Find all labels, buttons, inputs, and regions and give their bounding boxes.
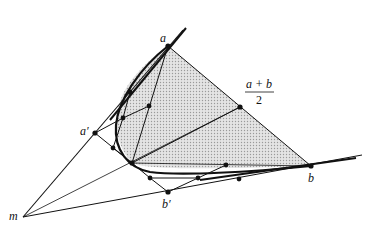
line-t-bprime [150, 178, 168, 192]
point-q [147, 104, 152, 109]
label-a: a [160, 31, 166, 45]
label-midpoint-denominator: 2 [256, 93, 262, 107]
point-b-prime [165, 189, 170, 194]
label-a-prime: a′ [80, 124, 89, 138]
point-midpoint [237, 104, 242, 109]
parabola-tangent-diagram: a a′ b b′ m a + b 2 [0, 0, 372, 231]
point-r [128, 90, 133, 95]
point-p [121, 116, 126, 121]
point-u [196, 176, 201, 181]
point-a [165, 43, 170, 48]
point-v [224, 163, 229, 168]
label-b-prime: b′ [162, 197, 171, 211]
label-m: m [9, 209, 18, 223]
point-t [148, 176, 153, 181]
point-b [308, 163, 313, 168]
point-s [111, 146, 116, 151]
point-a-prime [92, 130, 97, 135]
label-b: b [308, 171, 314, 185]
point-center [129, 160, 134, 165]
line-bprime-u [168, 178, 198, 192]
point-w [237, 177, 242, 182]
label-midpoint-numerator: a + b [246, 77, 272, 91]
